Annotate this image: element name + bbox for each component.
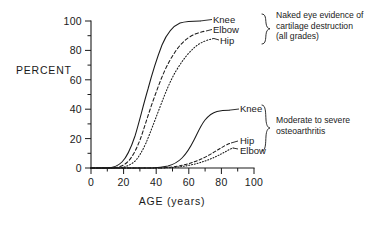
x-tick-label-100: 100: [245, 176, 263, 188]
leader-lower-hip: [231, 141, 238, 143]
curve-labels-upper: Knee Elbow Hip: [213, 14, 239, 46]
y-axis-ticks: [85, 21, 91, 168]
y-axis-tick-labels: 100 80 60 40 20 0: [64, 15, 82, 174]
leader-lower-knee: [229, 109, 239, 110]
x-axis-title: AGE (years): [139, 195, 206, 207]
curve-label-lower-elbow: Elbow: [240, 145, 266, 156]
y-tick-label-0: 0: [76, 162, 82, 174]
x-tick-label-0: 0: [88, 176, 94, 188]
y-axis-title: PERCENT: [16, 64, 72, 76]
leader-upper-hip: [214, 39, 219, 41]
x-tick-label-60: 60: [183, 176, 195, 188]
curves-upper-group: [91, 21, 214, 168]
annotation-upper-line-3: (all grades): [276, 31, 319, 41]
leader-upper-knee: [200, 20, 212, 22]
osteoarthritis-prevalence-chart: 100 80 60 40 20 0 0 20 40 60 80: [0, 0, 368, 227]
curve-upper-knee: [91, 21, 200, 168]
x-axis-tick-labels: 0 20 40 60 80 100: [88, 176, 263, 188]
x-tick-label-80: 80: [215, 176, 227, 188]
x-tick-label-20: 20: [117, 176, 129, 188]
curve-label-upper-hip: Hip: [220, 35, 234, 46]
chart-figure: 100 80 60 40 20 0 0 20 40 60 80: [0, 0, 368, 227]
leaders-lower: [229, 109, 239, 149]
annotation-lower-line-2: osteoarthritis: [276, 126, 325, 136]
y-tick-label-40: 40: [70, 103, 82, 115]
leader-upper-elbow: [206, 30, 212, 32]
x-axis-ticks: [91, 168, 254, 174]
annotation-upper-line-1: Naked eye evidence of: [276, 10, 364, 20]
y-tick-label-100: 100: [64, 15, 82, 27]
annotation-lower-line-1: Moderate to severe: [276, 115, 350, 125]
brace-upper-group: [262, 14, 270, 44]
annotation-lower-group: Moderate to severe osteoarthritis: [276, 115, 350, 136]
curve-label-lower-knee: Knee: [240, 103, 262, 114]
curve-upper-elbow: [91, 31, 206, 168]
annotation-upper-line-2: cartilage destruction: [276, 21, 353, 31]
curve-labels-lower: Knee Hip Elbow: [240, 103, 266, 156]
curve-lower-hip: [91, 143, 231, 168]
curves-lower-group: [91, 110, 233, 168]
y-tick-label-20: 20: [70, 133, 82, 145]
annotation-upper-group: Naked eye evidence of cartilage destruct…: [276, 10, 364, 41]
leader-lower-elbow: [233, 148, 238, 149]
curve-lower-elbow: [91, 148, 233, 168]
y-tick-label-80: 80: [70, 44, 82, 56]
curve-label-upper-elbow: Elbow: [213, 24, 239, 35]
x-tick-label-40: 40: [150, 176, 162, 188]
